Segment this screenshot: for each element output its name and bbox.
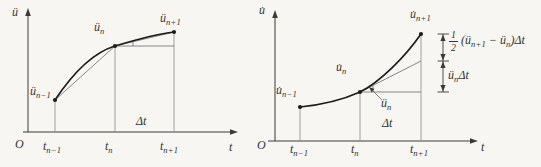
data-point-vn+1 xyxy=(419,32,423,36)
dimension-arrowhead-icon xyxy=(440,35,445,42)
slope-label-u-n: ün xyxy=(381,97,391,112)
right-y-axis-arrow-icon xyxy=(272,10,278,18)
data-point-un+1 xyxy=(172,30,176,34)
data-point-vn xyxy=(358,90,362,94)
tick-label-t-n: tn xyxy=(351,143,359,158)
dimension-arrowhead-icon xyxy=(440,85,445,92)
right-x-axis-arrow-icon xyxy=(470,138,478,144)
acceleration-velocity-integration-figure: ü ün−1 ün ün+1 Δt O tn−1 tn tn+1 t u̇ u̇… xyxy=(0,0,541,167)
dimension-arrowhead-icon xyxy=(440,62,445,69)
right-origin-label: O xyxy=(257,139,266,151)
data-point-un-1 xyxy=(53,98,57,102)
left-x-axis-arrow-icon xyxy=(230,129,238,135)
right-x-axis-label: t xyxy=(481,141,484,153)
left-y-axis-label: ü xyxy=(12,6,18,18)
one-half-fraction: 1 2 xyxy=(449,29,458,53)
dimension-upper-label: 1 2 (ün+1 − ün)Δt xyxy=(449,29,525,53)
point-label-u-n: ün xyxy=(94,21,104,36)
tick-label-t-n-1: tn−1 xyxy=(290,143,308,158)
tick-label-t-n-1: tn−1 xyxy=(43,140,61,155)
tick-label-t-n: tn xyxy=(105,140,113,155)
acceleration-curve xyxy=(55,32,174,100)
data-point-un xyxy=(113,44,117,48)
dimension-upper-expression: (ün+1 − ün)Δt xyxy=(461,34,525,49)
point-label-v-n-1: u̇n−1 xyxy=(276,84,297,99)
tick-label-t-n+1: tn+1 xyxy=(410,143,428,158)
dimension-lower-label: ünΔt xyxy=(448,69,469,84)
point-label-v-n: u̇n xyxy=(336,61,346,76)
left-chord-line-1 xyxy=(55,46,115,100)
right-delta-t-label: Δt xyxy=(382,117,392,129)
dimension-arrowhead-icon xyxy=(440,54,445,61)
left-delta-t-label: Δt xyxy=(136,115,146,127)
point-label-v-n+1: u̇n+1 xyxy=(410,8,431,23)
left-origin-label: O xyxy=(15,138,24,150)
right-y-axis-label: u̇ xyxy=(259,4,265,16)
data-point-vn-1 xyxy=(298,105,302,109)
point-label-u-n-1: ün−1 xyxy=(30,85,51,100)
point-label-u-n+1: ün+1 xyxy=(160,12,181,27)
tick-label-t-n+1: tn+1 xyxy=(160,140,178,155)
right-panel xyxy=(268,10,478,144)
left-x-axis-label: t xyxy=(229,141,232,153)
left-y-axis-arrow-icon xyxy=(25,8,31,16)
left-panel xyxy=(23,8,238,135)
